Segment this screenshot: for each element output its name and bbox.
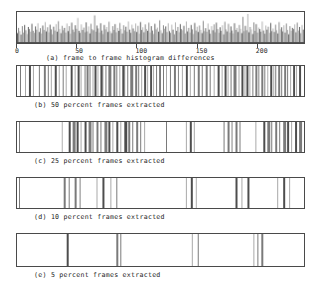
caption-panel-c: (c) 25 percent frames extracted	[34, 157, 165, 166]
strip-plot-panel-c	[16, 121, 305, 153]
strip-canvas-d	[17, 178, 304, 208]
strip-canvas-b	[17, 66, 304, 96]
histogram-plot-panel-a	[16, 11, 305, 44]
figure-container: 050100150200 (a) frame to frame histogra…	[0, 0, 315, 299]
caption-panel-d: (d) 10 percent frames extracted	[34, 213, 165, 222]
caption-panel-b: (b) 50 percent frames extracted	[34, 101, 165, 110]
strip-canvas-e	[17, 234, 304, 266]
strip-plot-panel-e	[16, 233, 305, 267]
strip-plot-panel-b	[16, 65, 305, 97]
caption-panel-e: (e) 5 percent frames extracted	[34, 271, 161, 280]
histogram-canvas	[17, 12, 304, 43]
strip-canvas-c	[17, 122, 304, 152]
caption-panel-a: (a) frame to frame histogram differences	[46, 54, 215, 63]
x-axis-tick-label: 200	[256, 47, 268, 56]
strip-plot-panel-d	[16, 177, 305, 209]
x-axis-tick-label: 0	[15, 47, 19, 56]
